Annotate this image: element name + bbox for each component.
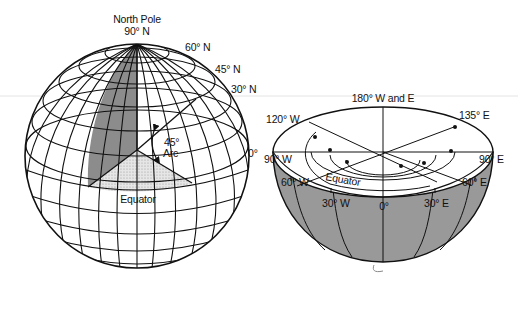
arc-word-label: Arc bbox=[163, 147, 178, 159]
equator-label-left: Equator bbox=[120, 193, 156, 205]
lon-0-label: 0° bbox=[379, 200, 389, 212]
right-hemisphere: 180° W and E 120° W 135° E 90° W 90° E 6… bbox=[264, 92, 504, 272]
meridian-0-label: 0° bbox=[248, 147, 258, 159]
left-globe: North Pole 90° N 60° N 45° N 30° N 0° 45… bbox=[25, 13, 258, 268]
lat-45n-label: 45° N bbox=[215, 63, 240, 75]
lon-90e-label: 90° E bbox=[479, 153, 504, 165]
lon-135e-label: 135° E bbox=[459, 109, 490, 121]
lon-60e-label: 60° E bbox=[462, 176, 487, 188]
north-pole-label: North Pole bbox=[113, 13, 161, 25]
lon-30e-label: 30° E bbox=[424, 197, 449, 209]
hook-mark bbox=[373, 265, 383, 272]
pole-90n-label: 90° N bbox=[124, 25, 149, 37]
lat-60n-label: 60° N bbox=[185, 41, 210, 53]
lon-90w-label: 90° W bbox=[264, 153, 292, 165]
lat-30n-label: 30° N bbox=[231, 83, 256, 95]
globe-diagram: North Pole 90° N 60° N 45° N 30° N 0° 45… bbox=[0, 0, 518, 309]
lon-60w-label: 60° W bbox=[281, 176, 309, 188]
lon-180-label: 180° W and E bbox=[352, 92, 415, 104]
lon-120w-label: 120° W bbox=[266, 113, 300, 125]
lon-30w-label: 30° W bbox=[322, 197, 350, 209]
